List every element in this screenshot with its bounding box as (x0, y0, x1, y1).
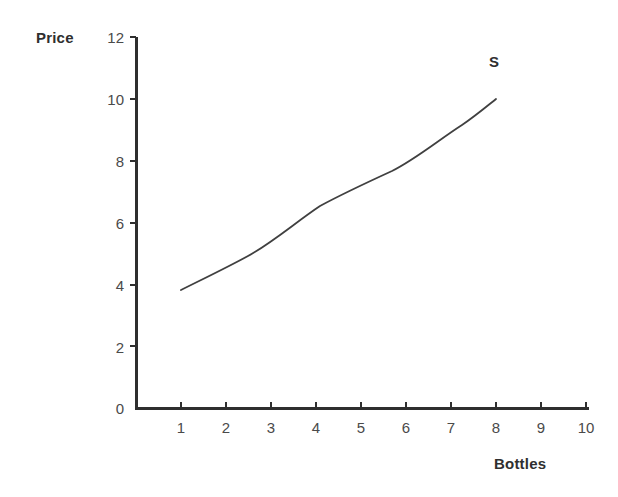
supply-curve (181, 99, 496, 290)
supply-curve-chart: Price Bottles 12 10 8 6 4 2 0 1 2 3 4 5 … (0, 0, 618, 497)
plot-area (0, 0, 618, 497)
